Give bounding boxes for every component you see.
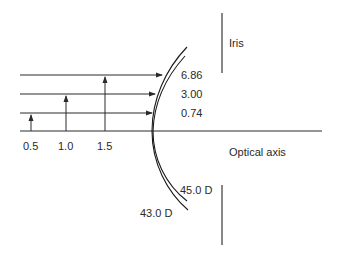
cornea-diagram: Iris 6.86 3.00 0.74 0.5 1.0 1.5 Optical … [0,0,342,255]
height-label-1-5: 1.5 [97,140,112,152]
power-label-43D: 43.0 D [140,207,172,219]
iris-label: Iris [229,37,244,49]
height-label-0-5: 0.5 [23,140,38,152]
value-label-0-74: 0.74 [181,107,202,119]
optical-axis-label: Optical axis [229,146,286,158]
value-label-3-00: 3.00 [181,88,202,100]
height-label-1-0: 1.0 [58,140,73,152]
value-label-6-86: 6.86 [181,69,202,81]
power-label-45D: 45.0 D [180,184,212,196]
